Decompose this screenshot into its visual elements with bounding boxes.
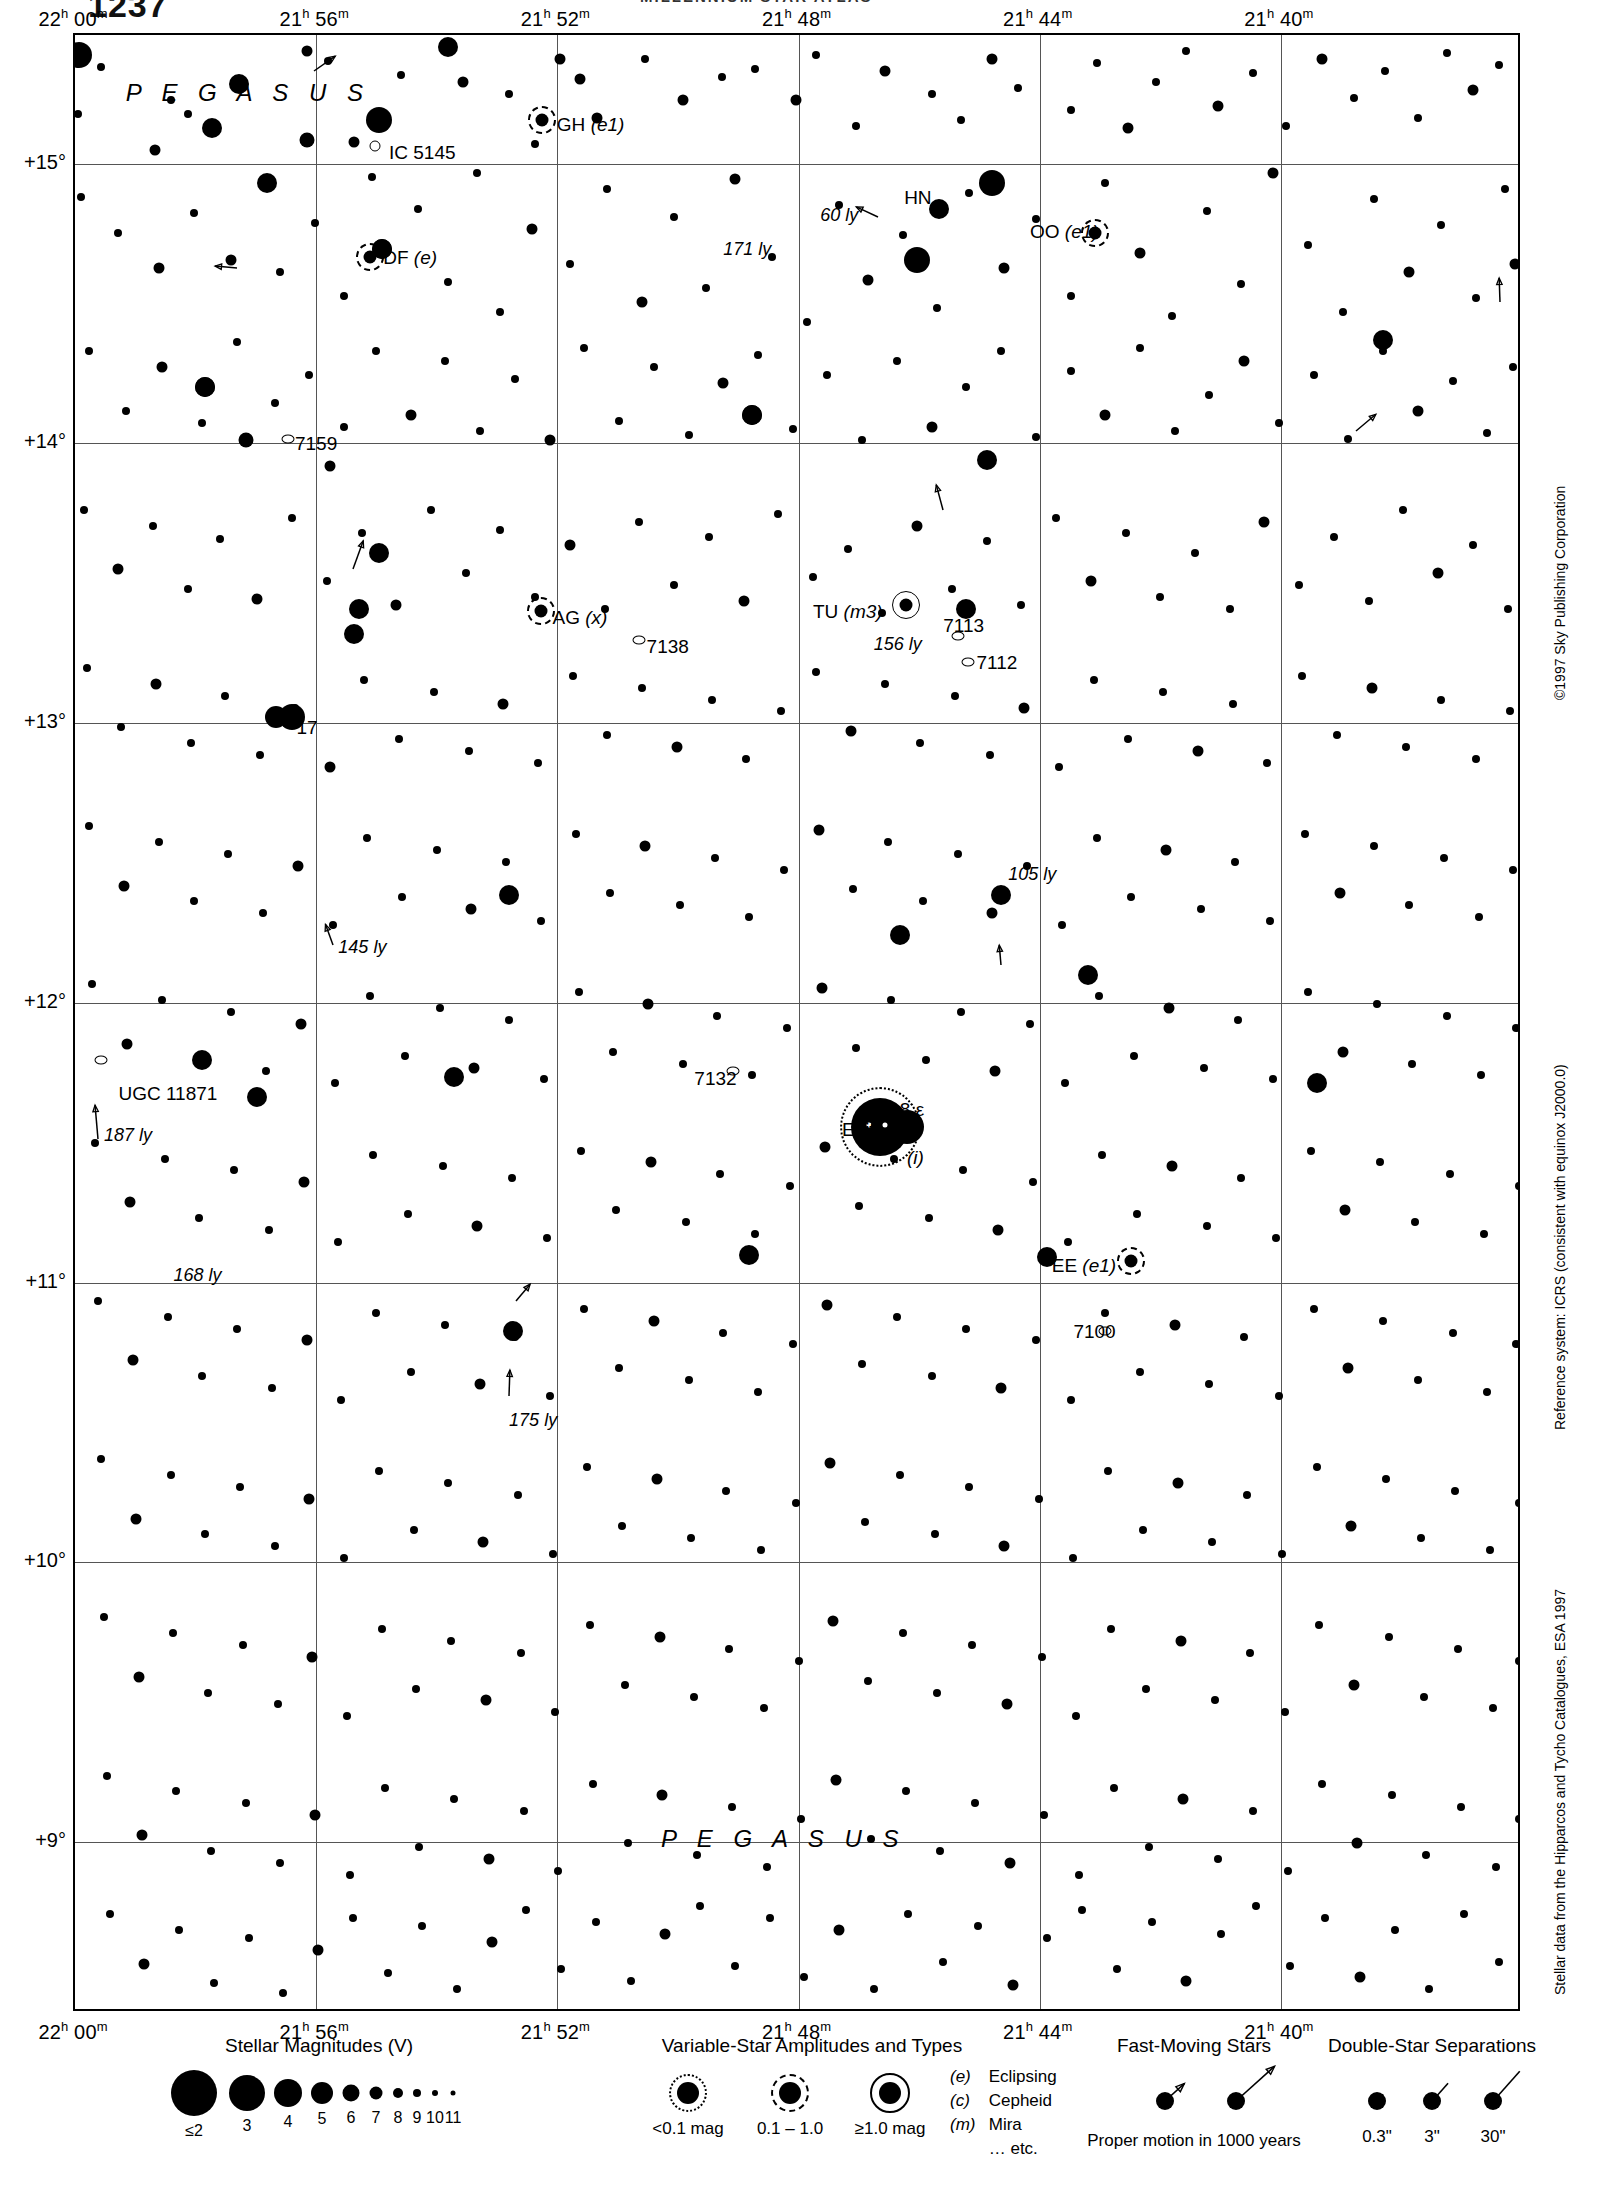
star xyxy=(259,909,267,917)
star xyxy=(496,526,504,534)
star xyxy=(1318,1780,1326,1788)
star xyxy=(1019,702,1030,713)
star xyxy=(884,838,892,846)
galaxy-symbol[interactable] xyxy=(95,1055,108,1064)
star xyxy=(1168,312,1176,320)
star xyxy=(718,73,726,81)
ra-tick-label-top-4: 21h 44m xyxy=(1003,6,1072,31)
star xyxy=(858,1360,866,1368)
star xyxy=(340,1554,348,1562)
star xyxy=(195,377,215,397)
star xyxy=(1175,1636,1186,1647)
star xyxy=(670,213,678,221)
star xyxy=(1085,575,1096,586)
star xyxy=(1067,1396,1075,1404)
star xyxy=(531,140,539,148)
variable-star-core[interactable] xyxy=(536,114,549,127)
star xyxy=(968,1641,976,1649)
star xyxy=(169,1629,177,1637)
star xyxy=(1169,1319,1180,1330)
star xyxy=(88,980,96,988)
star xyxy=(233,1325,241,1333)
star xyxy=(1133,1210,1141,1218)
named-star[interactable] xyxy=(265,706,287,728)
object-label: 7159 xyxy=(295,433,337,455)
star xyxy=(1197,905,1205,913)
star xyxy=(809,573,817,581)
star xyxy=(153,263,164,274)
star xyxy=(395,735,403,743)
star xyxy=(1208,1538,1216,1546)
star xyxy=(1301,830,1309,838)
galaxy-symbol[interactable] xyxy=(281,434,294,443)
star xyxy=(544,435,555,446)
star xyxy=(77,193,85,201)
star xyxy=(210,1979,218,1987)
star xyxy=(537,917,545,925)
legend-magnitude-dot xyxy=(393,2088,403,2098)
star xyxy=(896,1471,904,1479)
star xyxy=(763,1863,771,1871)
star xyxy=(1095,992,1103,1000)
star xyxy=(369,1151,377,1159)
star xyxy=(1313,1463,1321,1471)
star xyxy=(925,1214,933,1222)
star xyxy=(922,1056,930,1064)
star xyxy=(1457,1803,1465,1811)
object-label: 8 ε xyxy=(900,1099,924,1121)
proper-motion-arrow-icon xyxy=(848,187,908,247)
star xyxy=(1214,1855,1222,1863)
named-star[interactable] xyxy=(929,199,949,219)
star-chart-frame: P E G A S U SP E G A S U SIC 5145GH (e1)… xyxy=(73,33,1520,2011)
star xyxy=(1192,746,1203,757)
star xyxy=(618,1522,626,1530)
copyright-text: ©1997 Sky Publishing Corporation xyxy=(1552,486,1568,700)
galaxy-symbol[interactable] xyxy=(633,636,646,645)
star xyxy=(637,297,648,308)
star xyxy=(498,698,509,709)
double-star-companion[interactable] xyxy=(880,1120,889,1129)
star xyxy=(1412,405,1423,416)
star xyxy=(696,1902,704,1910)
star-field-plot[interactable]: P E G A S U SP E G A S U SIC 5145GH (e1)… xyxy=(75,35,1518,2009)
star xyxy=(1217,1930,1225,1938)
star xyxy=(1110,1784,1118,1792)
variable-star-core[interactable] xyxy=(534,604,547,617)
variable-star-core[interactable] xyxy=(1125,1255,1138,1268)
star xyxy=(103,1772,111,1780)
star xyxy=(1379,1317,1387,1325)
star xyxy=(340,423,348,431)
star xyxy=(564,540,575,551)
star xyxy=(546,1392,554,1400)
star xyxy=(1007,1980,1018,1991)
star xyxy=(313,1944,324,1955)
star xyxy=(983,537,991,545)
star xyxy=(834,1924,845,1935)
star xyxy=(549,1550,557,1558)
star xyxy=(1064,1238,1072,1246)
star xyxy=(751,1230,759,1238)
variable-star-core[interactable] xyxy=(899,598,912,611)
variable-star-core[interactable] xyxy=(364,250,377,263)
star xyxy=(1136,344,1144,352)
star xyxy=(828,1616,839,1627)
star xyxy=(742,405,762,425)
open-cluster-symbol[interactable] xyxy=(369,140,380,151)
star xyxy=(1107,1625,1115,1633)
star xyxy=(94,1297,102,1305)
proper-motion-arrow-icon xyxy=(479,1366,539,1426)
star xyxy=(998,1541,1009,1552)
star xyxy=(1495,1958,1503,1966)
star xyxy=(1203,207,1211,215)
star xyxy=(1272,1234,1280,1242)
legend-magnitude-dot xyxy=(370,2087,383,2100)
legend-title-proper-motion: Fast-Moving Stars xyxy=(1117,2035,1271,2057)
galaxy-symbol[interactable] xyxy=(961,658,974,667)
star xyxy=(184,110,192,118)
star xyxy=(1512,1340,1518,1348)
star xyxy=(139,1958,150,1969)
star xyxy=(1243,1491,1251,1499)
star xyxy=(641,55,649,63)
star xyxy=(685,431,693,439)
star xyxy=(1315,1621,1323,1629)
